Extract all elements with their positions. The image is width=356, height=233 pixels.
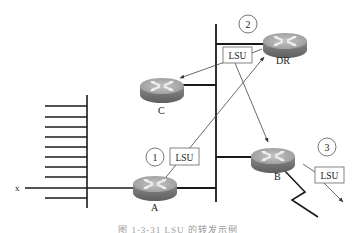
router-icon <box>251 148 295 173</box>
network-x-link: x <box>15 183 140 193</box>
network-x-label: x <box>15 183 20 193</box>
router-c[interactable] <box>140 78 184 103</box>
figure-caption: 图 1-3-31 LSU 的转发示例 <box>0 223 356 233</box>
router-c-label: C <box>158 105 165 116</box>
step-2-badge: 2 <box>239 15 257 33</box>
svg-text:2: 2 <box>246 19 251 30</box>
path-dr-to-c <box>180 62 225 78</box>
router-b[interactable] <box>251 148 295 173</box>
router-b-label: B <box>274 171 281 182</box>
stub-network-comb <box>45 95 87 208</box>
lsu-forwarding-diagram: x <box>0 0 356 233</box>
router-a[interactable] <box>133 176 177 201</box>
router-icon <box>140 78 184 103</box>
lsu-box-b: LSU <box>315 167 344 183</box>
router-dr-label: DR <box>276 55 290 66</box>
path-dr-to-b <box>235 63 268 142</box>
svg-text:3: 3 <box>325 142 330 153</box>
step-1-badge: 1 <box>146 148 164 166</box>
svg-text:LSU: LSU <box>176 153 194 163</box>
path-b-outward <box>323 182 343 202</box>
svg-text:LSU: LSU <box>321 171 339 181</box>
step-3-badge: 3 <box>318 138 336 156</box>
svg-text:LSU: LSU <box>229 51 247 61</box>
lsu-box-dr: LSU <box>223 47 252 63</box>
serial-link <box>284 170 318 217</box>
router-a-label: A <box>151 202 159 213</box>
lsu-box-a: LSU <box>170 148 199 165</box>
svg-text:1: 1 <box>153 152 158 163</box>
router-icon <box>133 176 177 201</box>
